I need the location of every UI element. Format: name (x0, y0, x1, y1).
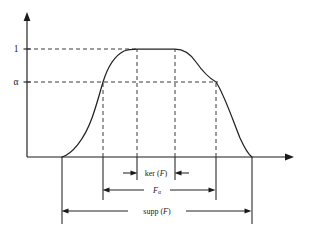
measure-supp-label: supp (F) (143, 206, 171, 215)
y-axis-arrow-icon (24, 12, 31, 21)
membership-curve (62, 49, 252, 157)
figure-container: 1 α ke (0, 0, 309, 237)
y-axis-label-alpha: α (14, 77, 19, 87)
measure-ker-label: ker (F) (145, 168, 168, 177)
measure-supp-right-arrow-icon (245, 208, 252, 213)
measure-supp-left-arrow-icon (62, 208, 69, 213)
measure-falpha-label: Fα (152, 185, 161, 195)
measure-falpha-left-arrow-icon (103, 187, 110, 192)
measure-ker-right-arrow-icon (175, 170, 182, 175)
measure-falpha-right-arrow-icon (209, 187, 216, 192)
axes-group (24, 12, 294, 160)
measure-supp: supp (F) (62, 206, 252, 215)
membership-function-chart: 1 α ke (0, 0, 309, 237)
x-axis-arrow-icon (285, 154, 294, 161)
measure-ker: ker (F) (123, 168, 189, 177)
y-axis-label-one: 1 (14, 44, 19, 54)
measure-falpha: Fα (103, 185, 216, 195)
measure-ker-left-arrow-icon (131, 170, 138, 175)
